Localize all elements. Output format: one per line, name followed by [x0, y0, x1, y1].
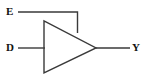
buffer-gate-schematic: [0, 0, 146, 82]
schematic-canvas: E D Y: [0, 0, 146, 82]
enable-pin-label: E: [6, 6, 13, 17]
data-pin-label: D: [6, 42, 14, 53]
buffer-triangle-body: [44, 21, 96, 73]
output-pin-label: Y: [132, 42, 140, 53]
